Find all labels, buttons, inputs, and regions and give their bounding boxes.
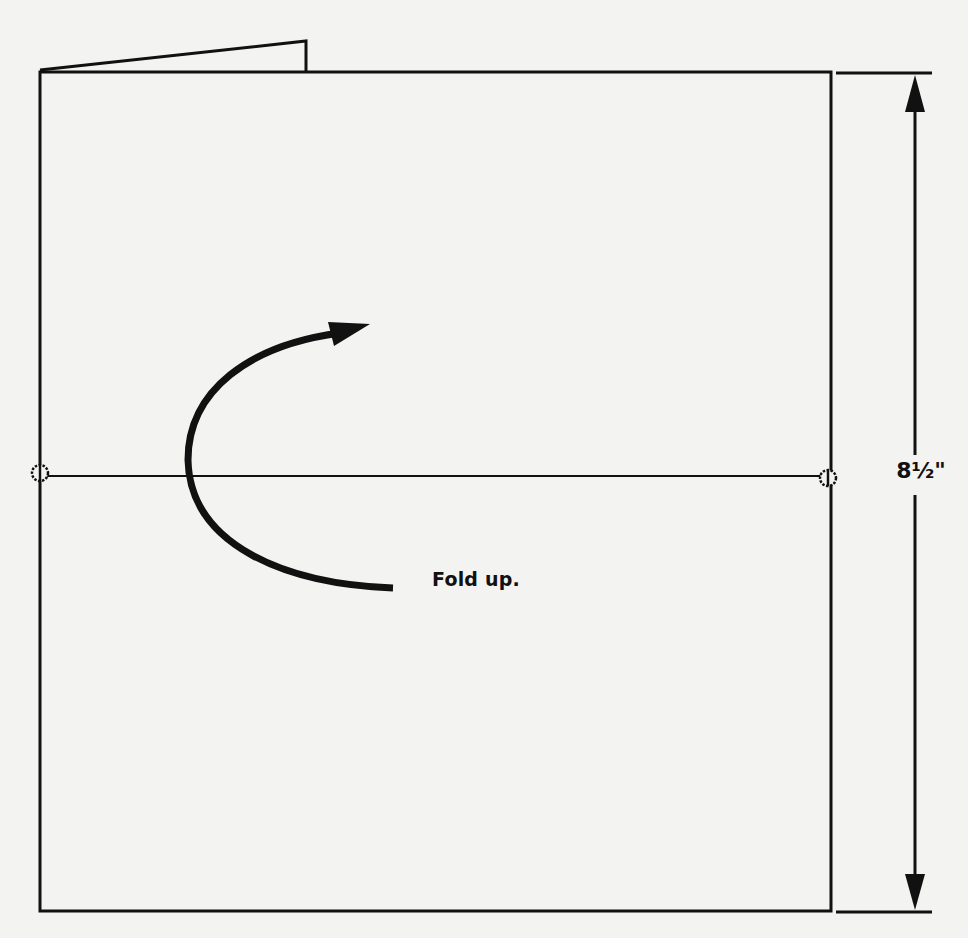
paper-sheet bbox=[40, 72, 831, 911]
fold-diagram bbox=[0, 0, 968, 938]
fold-instruction-label: Fold up. bbox=[432, 568, 520, 590]
arrow-up-icon bbox=[905, 75, 925, 112]
fold-mark-right-icon bbox=[820, 470, 836, 486]
fold-mark-left-icon bbox=[32, 465, 48, 481]
dimension-indicator bbox=[836, 73, 932, 912]
height-dimension-label: 8½" bbox=[890, 456, 952, 486]
fold-up-arrow-icon bbox=[188, 322, 393, 588]
top-flap bbox=[40, 41, 306, 72]
arrow-down-icon bbox=[905, 874, 925, 910]
